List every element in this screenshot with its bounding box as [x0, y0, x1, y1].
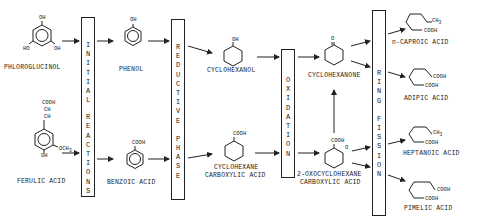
phase-word: RING	[377, 69, 381, 106]
phase-letter: U	[176, 71, 180, 80]
phase-letter: S	[377, 133, 381, 142]
phase-letter: A	[286, 113, 290, 122]
phase-letter: R	[377, 69, 381, 78]
phase-letter: R	[86, 113, 90, 122]
phase-letter: H	[176, 144, 180, 153]
phase-word: OXIDATION	[286, 76, 290, 159]
phase-letter: P	[176, 135, 180, 144]
ch-text: CH	[432, 17, 439, 24]
phase-letter: T	[86, 150, 90, 159]
reductive-phase-box: REDUCTIVEPHASE	[171, 19, 185, 200]
subscript: 3	[439, 20, 442, 25]
phase-letter: E	[176, 52, 180, 61]
cooh-group: COOH	[331, 138, 344, 144]
phase-letter: N	[286, 150, 290, 159]
phase-letter: T	[176, 89, 180, 98]
cyclohexanone-label: CYCLOHEXANONE	[308, 72, 360, 80]
o-group: O	[331, 36, 334, 42]
n-caproic-acid-label: n-CAPROIC ACID	[392, 39, 449, 47]
phase-letter: I	[286, 131, 290, 140]
och-text: OCH	[59, 145, 69, 152]
phase-letter: L	[86, 96, 90, 105]
phase-letter: X	[286, 85, 290, 94]
cooh-group: COOH	[424, 28, 437, 34]
phase-letter: E	[176, 117, 180, 126]
oh-group: OH	[39, 15, 46, 21]
ferulic-acid-label: FERULIC ACID	[17, 178, 65, 186]
phase-word: INITIAL	[86, 41, 90, 105]
initial-reactions-box: INITIALREACTIONS	[81, 17, 95, 197]
cyclohexane-carboxylic-acid-structure	[225, 137, 243, 161]
cooh-group: COOH	[433, 74, 446, 80]
ferulic-acid-structure	[35, 120, 58, 153]
ch-text: CH	[433, 129, 440, 136]
phase-word: FISSION	[377, 115, 381, 179]
phase-letter: N	[377, 170, 381, 179]
cooh-group: COOH	[233, 131, 246, 137]
ring-fission-box: RINGFISSION	[372, 10, 386, 216]
oh-group: OH	[54, 46, 61, 52]
phase-word: PHASE	[176, 135, 180, 181]
phase-word: REACTIONS	[86, 113, 90, 196]
phase-letter: V	[176, 107, 180, 116]
cyclohexanone-structure	[325, 42, 343, 65]
phase-letter: S	[86, 187, 90, 196]
phase-letter: S	[377, 142, 381, 151]
oxocyclohexane-carboxylic-acid-structure	[325, 144, 343, 168]
subscript: 3	[69, 148, 72, 153]
phase-letter: E	[86, 122, 90, 131]
phase-letter: T	[86, 69, 90, 78]
phase-letter: I	[86, 59, 90, 68]
phase-letter: T	[286, 122, 290, 131]
pathway-diagram	[0, 0, 478, 224]
phase-letter: E	[176, 172, 180, 181]
phase-letter: I	[86, 78, 90, 87]
phase-letter: O	[286, 76, 290, 85]
phase-letter: F	[377, 115, 381, 124]
benzoic-acid-structure	[127, 146, 143, 169]
phase-letter: I	[286, 94, 290, 103]
phase-letter: A	[176, 153, 180, 162]
cyclohexane-carboxylic-label-2: CARBOXYLIC ACID	[205, 172, 266, 180]
cooh-group: COOH	[425, 140, 438, 146]
phase-letter: N	[377, 87, 381, 96]
phase-letter: S	[176, 162, 180, 171]
phase-letter: I	[86, 159, 90, 168]
phase-letter: A	[86, 132, 90, 141]
phase-letter: N	[86, 50, 90, 59]
oxidation-box: OXIDATION	[281, 49, 295, 178]
ch-group: CH	[44, 114, 51, 120]
phase-letter: O	[377, 161, 381, 170]
phase-word: REDUCTIVE	[176, 43, 180, 126]
phase-letter: N	[86, 178, 90, 187]
phloroglucinol-structure	[29, 21, 55, 46]
phase-letter: I	[377, 152, 381, 161]
oxocyclohexane-label-2: CARBOXYLIC ACID	[300, 179, 361, 187]
reaction-arrows	[62, 29, 405, 181]
phase-letter: I	[86, 41, 90, 50]
cooh-group: COOH	[425, 196, 438, 202]
benzoic-acid-label: BENZOIC ACID	[107, 179, 155, 187]
ch3-group: CH3	[432, 18, 441, 26]
phase-letter: D	[176, 61, 180, 70]
ho-group: HO	[23, 46, 30, 52]
cooh-group: COOH	[437, 187, 450, 193]
och3-group: OCH3	[59, 146, 72, 154]
oh-group: OH	[130, 17, 137, 23]
phase-letter: C	[86, 141, 90, 150]
cooh-group: COOH	[132, 140, 145, 146]
phase-letter: O	[86, 168, 90, 177]
cooh-group: COOH	[425, 83, 438, 89]
cyclohexanol-label: CYCLOHEXANOL	[207, 67, 255, 75]
o-group: O	[345, 145, 348, 151]
oxocyclohexane-label-1: 2-OXOCYCLOHEXANE	[297, 171, 362, 179]
phloroglucinol-label: PHLOROGLUCINOL	[4, 64, 61, 72]
phenol-structure	[125, 24, 141, 46]
phase-letter: I	[377, 78, 381, 87]
phase-letter: R	[176, 43, 180, 52]
cyclohexanol-structure	[224, 42, 242, 66]
phase-letter: O	[286, 140, 290, 149]
subscript: 3	[440, 132, 443, 137]
phase-letter: I	[176, 98, 180, 107]
oh-group: OH	[41, 153, 48, 159]
